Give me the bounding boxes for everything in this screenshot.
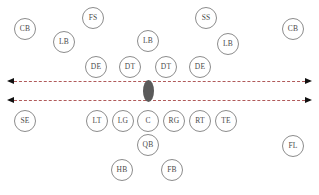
player-lb-left[interactable]: LB xyxy=(53,31,75,53)
player-position-label: RT xyxy=(195,117,205,125)
offensive-line-of-scrimmage xyxy=(14,100,305,101)
player-position-label: LB xyxy=(143,37,153,45)
player-position-label: CB xyxy=(20,25,30,33)
player-position-label: SE xyxy=(20,117,29,125)
player-de-right[interactable]: DE xyxy=(189,56,211,78)
player-cb-left[interactable]: CB xyxy=(14,18,36,40)
offensive-line-of-scrimmage-right-arrow-icon xyxy=(305,97,312,103)
player-fs[interactable]: FS xyxy=(82,7,104,29)
player-position-label: LB xyxy=(223,40,233,48)
player-position-label: LB xyxy=(59,38,69,46)
player-fb[interactable]: FB xyxy=(161,159,183,181)
player-de-left[interactable]: DE xyxy=(85,56,107,78)
player-position-label: SS xyxy=(202,14,211,22)
player-c[interactable]: C xyxy=(137,110,159,132)
player-position-label: TE xyxy=(221,117,231,125)
player-position-label: QB xyxy=(143,141,154,149)
player-position-label: DT xyxy=(125,63,135,71)
football-formation-diagram: CBFSSSCBLBLBLBDEDTDTDESELTLGCRGRTTEFLQBH… xyxy=(0,0,319,195)
player-position-label: DE xyxy=(91,63,101,71)
player-position-label: LT xyxy=(93,117,102,125)
football-icon xyxy=(143,80,154,102)
player-lb-right[interactable]: LB xyxy=(217,33,239,55)
player-lt[interactable]: LT xyxy=(86,110,108,132)
player-rt[interactable]: RT xyxy=(189,110,211,132)
player-dt-right[interactable]: DT xyxy=(155,56,177,78)
player-te[interactable]: TE xyxy=(215,110,237,132)
player-rg[interactable]: RG xyxy=(163,110,185,132)
player-position-label: HB xyxy=(117,166,128,174)
player-fl[interactable]: FL xyxy=(282,135,304,157)
player-ss[interactable]: SS xyxy=(195,7,217,29)
player-position-label: RG xyxy=(169,117,180,125)
player-hb[interactable]: HB xyxy=(111,159,133,181)
player-position-label: LG xyxy=(118,117,128,125)
player-position-label: C xyxy=(145,117,150,125)
player-se[interactable]: SE xyxy=(14,110,36,132)
player-position-label: FL xyxy=(288,142,297,150)
player-position-label: CB xyxy=(288,25,298,33)
player-lb-middle[interactable]: LB xyxy=(137,30,159,52)
defensive-line-of-scrimmage-left-arrow-icon xyxy=(7,78,14,84)
player-dt-left[interactable]: DT xyxy=(119,56,141,78)
player-cb-right[interactable]: CB xyxy=(282,18,304,40)
player-position-label: FB xyxy=(167,166,177,174)
defensive-line-of-scrimmage xyxy=(14,81,305,82)
defensive-line-of-scrimmage-right-arrow-icon xyxy=(305,78,312,84)
player-lg[interactable]: LG xyxy=(112,110,134,132)
player-position-label: FS xyxy=(89,14,98,22)
player-position-label: DT xyxy=(161,63,171,71)
offensive-line-of-scrimmage-left-arrow-icon xyxy=(7,97,14,103)
player-qb[interactable]: QB xyxy=(137,134,159,156)
player-position-label: DE xyxy=(195,63,205,71)
